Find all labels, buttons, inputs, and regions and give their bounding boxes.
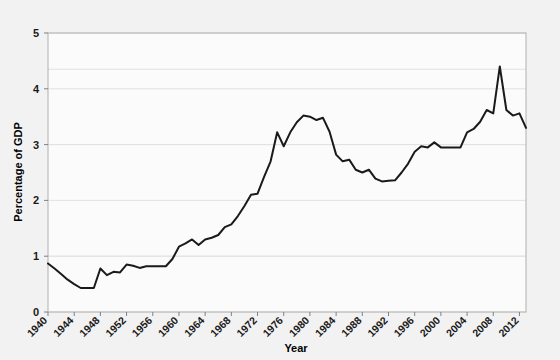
- y-tick-label: 1: [33, 250, 39, 262]
- y-tick-label: 2: [33, 194, 39, 206]
- y-tick-label: 3: [33, 139, 39, 151]
- y-tick-label: 4: [33, 83, 40, 95]
- y-axis-title: Percentage of GDP: [12, 122, 24, 222]
- y-tick-label: 5: [33, 27, 39, 39]
- chart-figure: 012345 194019441948195219561960196419681…: [0, 0, 560, 360]
- x-axis-title: Year: [284, 342, 308, 354]
- plot-area-background: [48, 33, 526, 312]
- line-chart: 012345 194019441948195219561960196419681…: [0, 0, 560, 360]
